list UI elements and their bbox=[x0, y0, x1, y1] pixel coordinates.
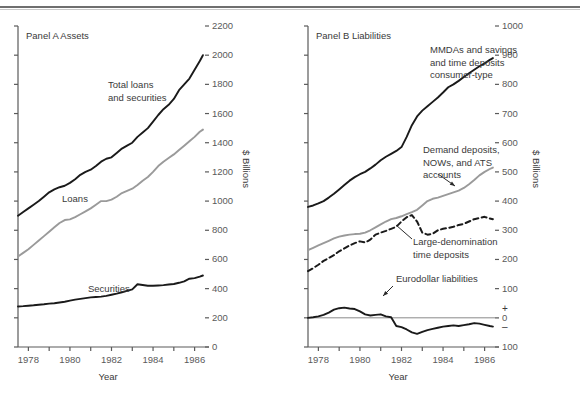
x-tick-label: 1980 bbox=[343, 354, 377, 365]
annotation-total-loans-and-securities: Total loansand securities bbox=[108, 79, 167, 104]
x-tick-label: 1984 bbox=[426, 354, 460, 365]
x-tick-label: 1986 bbox=[468, 354, 502, 365]
y-tick-label: 800 bbox=[212, 224, 228, 235]
y-tick-label: 1000 bbox=[502, 20, 523, 31]
x-tick-label: 1984 bbox=[136, 354, 170, 365]
x-tick-label: 1982 bbox=[385, 354, 419, 365]
series-eurodollar-liabilities bbox=[308, 308, 493, 334]
y-tick-label: 400 bbox=[212, 283, 228, 294]
annotation-demand-deposits-nows-ats: Demand deposits,NOWs, and ATSaccounts bbox=[423, 144, 500, 182]
annotation-line: Large-denomination bbox=[413, 236, 498, 249]
series-loans bbox=[18, 130, 203, 257]
annotation-line: NOWs, and ATS bbox=[423, 157, 500, 170]
y-tick-label: 500 bbox=[502, 166, 518, 177]
x-tick-label: 1982 bbox=[95, 354, 129, 365]
annotation-line: and securities bbox=[108, 92, 167, 105]
y-tick-label: 100 bbox=[502, 283, 518, 294]
y-tick-label: 2000 bbox=[212, 49, 233, 60]
annotation-arrowhead bbox=[450, 181, 455, 186]
y-tick-label: 200 bbox=[502, 253, 518, 264]
y-axis-title: $ Billions bbox=[241, 150, 252, 188]
annotation-line: consumer-type bbox=[430, 69, 517, 82]
annotation-line: and time deposits bbox=[430, 57, 517, 70]
y-axis-title: $ Billions bbox=[531, 150, 542, 188]
x-axis-title: Year bbox=[389, 371, 408, 382]
x-tick-label: 1978 bbox=[301, 354, 335, 365]
annotation-eurodollar-liabilities: Eurodollar liabilities bbox=[396, 273, 478, 286]
y-tick-label: 300 bbox=[502, 224, 518, 235]
annotation-loans: Loans bbox=[62, 193, 88, 206]
panel-title: Panel B Liabilities bbox=[316, 30, 391, 41]
annotation-line: time deposits bbox=[413, 249, 498, 262]
x-tick-label: 1978 bbox=[11, 354, 45, 365]
annotation-line: Eurodollar liabilities bbox=[396, 273, 478, 286]
y-sign-plus: + bbox=[502, 305, 508, 313]
y-tick-label: 600 bbox=[502, 137, 518, 148]
x-tick-label: 1980 bbox=[53, 354, 87, 365]
panel-a-assets: Panel A Assets02004006008001000120014001… bbox=[0, 0, 290, 398]
annotation-line: Total loans bbox=[108, 79, 167, 92]
annotation-mmdas-and-savings: MMDAs and savingsand time depositsconsum… bbox=[430, 44, 517, 82]
y-sign-minus: – bbox=[502, 323, 508, 331]
panel-title: Panel A Assets bbox=[26, 30, 89, 41]
annotation-securities: Securities bbox=[88, 283, 130, 296]
annotation-line: Demand deposits, bbox=[423, 144, 500, 157]
panel-b-liabilities: Panel B Liabilities100010020030040050060… bbox=[290, 0, 580, 398]
y-tick-label: 700 bbox=[502, 108, 518, 119]
y-tick-label: 0 bbox=[212, 341, 217, 352]
annotation-line: Securities bbox=[88, 283, 130, 296]
y-tick-label: 1400 bbox=[212, 137, 233, 148]
y-tick-label: 1200 bbox=[212, 166, 233, 177]
annotation-line: accounts bbox=[423, 169, 500, 182]
annotation-line: MMDAs and savings bbox=[430, 44, 517, 57]
annotation-line: Loans bbox=[62, 193, 88, 206]
panel-a-plot bbox=[0, 0, 290, 398]
annotation-leader-line bbox=[396, 225, 412, 239]
y-tick-label: 400 bbox=[502, 195, 518, 206]
annotation-large-denomination-time-deposits: Large-denominationtime deposits bbox=[413, 236, 498, 261]
y-tick-label: 1800 bbox=[212, 78, 233, 89]
y-tick-label: 1600 bbox=[212, 108, 233, 119]
y-tick-label: 200 bbox=[212, 312, 228, 323]
x-axis-title: Year bbox=[99, 371, 118, 382]
y-tick-label: 1000 bbox=[212, 195, 233, 206]
y-tick-label: 600 bbox=[212, 253, 228, 264]
y-tick-label: 100 bbox=[502, 341, 518, 352]
x-tick-label: 1986 bbox=[178, 354, 212, 365]
y-tick-label: 2200 bbox=[212, 20, 233, 31]
